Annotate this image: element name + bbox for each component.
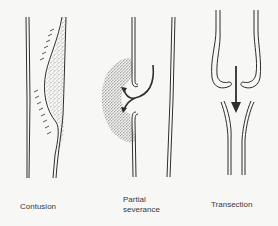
transection-upper-left-wall (212, 10, 232, 88)
partial-severance-label-line1: Partial (123, 195, 160, 205)
partial-severance-label: Partial severance (123, 195, 160, 215)
partial-severance-panel (102, 17, 175, 177)
transection-lower-left-wall (221, 101, 231, 175)
diagram-svg (0, 0, 278, 226)
transection-panel (212, 10, 261, 175)
transection-label: Transection (211, 200, 253, 210)
partial-right-wall (167, 17, 175, 177)
contusion-hematoma (46, 17, 66, 152)
contusion-panel (26, 17, 66, 178)
vessel-injury-diagram: Contusion Partial severance Transection (0, 0, 278, 226)
transection-flow-arrow (231, 66, 241, 113)
contusion-label: Contusion (20, 202, 56, 212)
partial-left-wall-bottom (132, 112, 138, 177)
transection-lower-right-wall (242, 101, 254, 175)
contusion-left-wall (26, 17, 30, 178)
partial-severance-label-line2: severance (123, 205, 160, 215)
partial-left-wall-top (132, 17, 138, 87)
transection-upper-right-wall (241, 10, 261, 88)
